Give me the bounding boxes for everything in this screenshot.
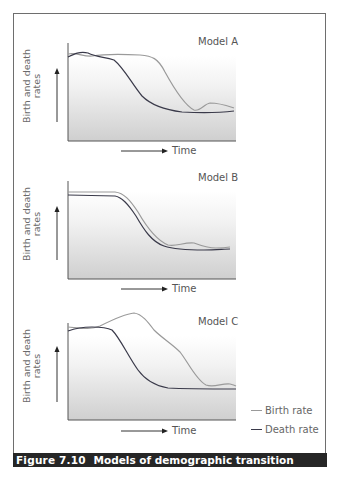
right-arrow-icon xyxy=(162,429,168,434)
up-arrow-icon xyxy=(55,346,60,352)
y-label-line2: rates xyxy=(32,328,42,404)
birth-rate-swatch xyxy=(251,410,262,411)
figure-caption: Figure 7.10 Models of demographic transi… xyxy=(13,453,327,467)
model-c-label: Model C xyxy=(198,316,238,327)
death-rate-swatch xyxy=(251,429,262,430)
legend-death-label: Death rate xyxy=(265,424,319,435)
time-label: Time xyxy=(172,425,196,436)
legend-birth-label: Birth rate xyxy=(265,405,313,416)
figure-title: Models of demographic transition xyxy=(93,454,293,466)
plot-area-gradient xyxy=(68,336,236,420)
legend-death-rate: Death rate xyxy=(251,424,319,435)
legend-birth-rate: Birth rate xyxy=(251,405,313,416)
y-axis-label: Birth and death rates xyxy=(22,328,42,404)
figure-number: Figure 7.10 xyxy=(16,454,86,466)
